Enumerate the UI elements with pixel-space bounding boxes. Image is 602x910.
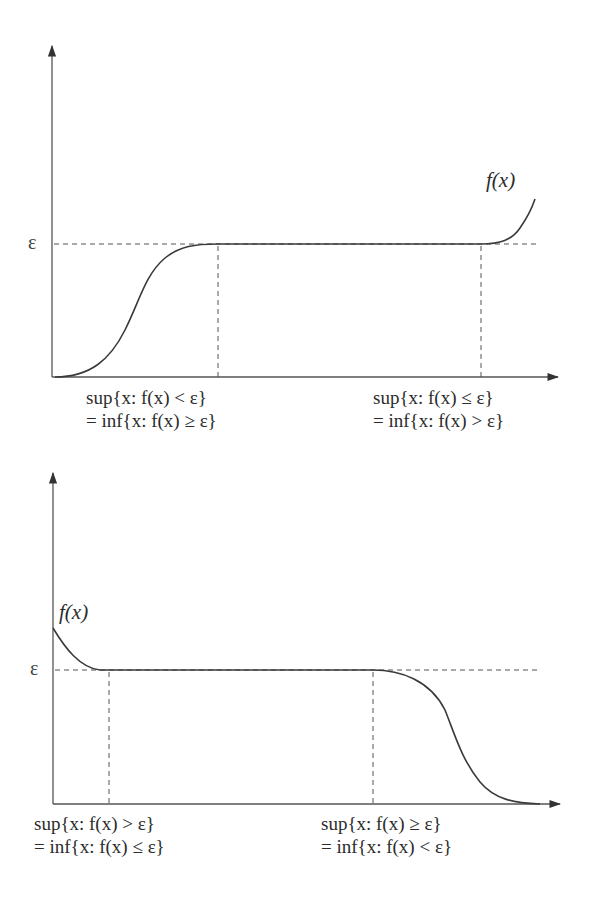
bottom-curve-label: f(x): [59, 600, 88, 625]
top-epsilon-label: ε: [28, 231, 36, 254]
bottom-curve: [53, 628, 540, 804]
bottom-chart: [53, 473, 560, 804]
top-chart: [52, 46, 558, 377]
top-left-label-line1: sup{x: f(x) < ε}: [86, 386, 217, 409]
bottom-right-marker-label: sup{x: f(x) ≥ ε} = inf{x: f(x) < ε}: [321, 812, 452, 858]
top-curve-label: f(x): [486, 168, 515, 193]
top-curve: [55, 199, 535, 377]
top-right-label-line2: = inf{x: f(x) > ε}: [373, 409, 504, 432]
bottom-epsilon-label: ε: [30, 657, 38, 680]
bottom-left-label-line2: = inf{x: f(x) ≤ ε}: [34, 835, 165, 858]
top-right-label-line1: sup{x: f(x) ≤ ε}: [373, 386, 504, 409]
top-left-label-line2: = inf{x: f(x) ≥ ε}: [86, 409, 217, 432]
top-left-marker-label: sup{x: f(x) < ε} = inf{x: f(x) ≥ ε}: [86, 386, 217, 432]
bottom-left-marker-label: sup{x: f(x) > ε} = inf{x: f(x) ≤ ε}: [34, 812, 165, 858]
top-right-marker-label: sup{x: f(x) ≤ ε} = inf{x: f(x) > ε}: [373, 386, 504, 432]
bottom-right-label-line2: = inf{x: f(x) < ε}: [321, 835, 452, 858]
diagram-canvas: [0, 0, 602, 910]
bottom-right-label-line1: sup{x: f(x) ≥ ε}: [321, 812, 452, 835]
bottom-left-label-line1: sup{x: f(x) > ε}: [34, 812, 165, 835]
